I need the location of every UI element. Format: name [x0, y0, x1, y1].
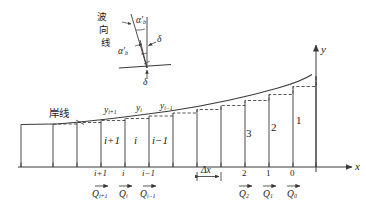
flux-label-1: Q1	[263, 190, 273, 200]
stepped-discretization	[53, 76, 316, 124]
x-axis-label: x	[355, 161, 360, 172]
q-base-glyph: Q	[287, 189, 294, 199]
alpha-bottom-subscript: b	[125, 50, 128, 56]
node-index-2: 2	[242, 169, 247, 178]
y-subscript: i	[140, 107, 142, 113]
flux-label-i-minus-1: Qi−1	[140, 190, 155, 200]
y-label-i-plus-1: yi+1	[104, 106, 117, 116]
node-index-i-minus-1: i−1	[142, 169, 155, 178]
flux-label-0: Q0	[287, 190, 297, 200]
alpha-b-prime-top-label: α′b	[136, 16, 146, 26]
flux-label-2: Q2	[239, 190, 249, 200]
wave-direction-char-1: 波	[97, 12, 107, 22]
cell-label-1: 1	[296, 115, 302, 126]
inset-ground-line	[119, 65, 171, 69]
alpha-top-subscript: b	[143, 19, 146, 25]
cell-label-i-minus-1: i−1	[152, 135, 168, 146]
y-axis-label: y	[321, 44, 326, 55]
inset-wave-label-pointer	[122, 22, 131, 24]
node-index-0: 0	[290, 169, 295, 178]
y-subscript: i−1	[164, 105, 173, 111]
wave-direction-char-2: 向	[99, 25, 109, 35]
shoreline-smooth-curve	[53, 75, 312, 125]
cell-label-i-plus-1: i+1	[104, 135, 120, 146]
y-subscript: i+1	[108, 109, 117, 115]
node-index-i-plus-1: i+1	[94, 169, 107, 178]
wave-direction-char-3: 线	[101, 38, 111, 48]
flux-label-i: Qi	[119, 190, 128, 200]
delta-bottom-label: δ	[143, 78, 147, 88]
cell-label-3: 3	[246, 128, 252, 139]
q-base-glyph: Q	[239, 189, 246, 199]
cell-label-i: i	[134, 135, 137, 146]
shoreline-curve	[53, 75, 312, 125]
q-subscript: 1	[270, 193, 273, 199]
q-subscript: i+1	[99, 193, 108, 199]
delta-x-label: Δx	[201, 166, 211, 176]
inset-angle-arc-top	[136, 29, 145, 30]
left-flat-top	[21, 124, 53, 125]
q-subscript: 0	[294, 193, 297, 199]
q-subscript: i−1	[147, 193, 156, 199]
q-base-glyph: Q	[119, 189, 126, 199]
q-base-glyph: Q	[92, 189, 99, 199]
q-subscript: i	[126, 193, 128, 199]
y-label-i-minus-1: yi−1	[160, 102, 173, 112]
diagram-canvas: 波 向 线 α′b α′b δ δ 岸线 x y yi+1 yi yi−1 i+…	[0, 0, 366, 214]
q-subscript: 2	[246, 193, 249, 199]
node-index-1: 1	[266, 169, 271, 178]
shoreline-label: 岸线	[49, 108, 69, 119]
node-index-i: i	[122, 169, 125, 178]
inset-angle-arc-bottom	[141, 53, 147, 54]
q-base-glyph: Q	[263, 189, 270, 199]
delta-right-label: δ	[157, 35, 161, 45]
flux-label-i-plus-1: Qi+1	[92, 190, 107, 200]
q-base-glyph: Q	[140, 189, 147, 199]
x-axis-node-ticks	[21, 163, 316, 168]
cell-label-2: 2	[271, 122, 277, 133]
alpha-b-prime-bottom-label: α′b	[118, 47, 128, 57]
y-label-i: yi	[136, 104, 142, 114]
inset-delta-pointer-right	[149, 42, 157, 46]
step-profile-path	[53, 76, 316, 124]
